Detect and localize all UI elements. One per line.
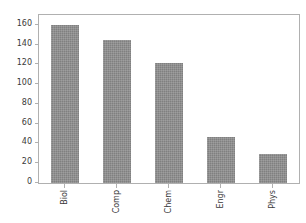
plot-area [38,14,300,184]
bar-phys [259,154,286,183]
x-axis: BiolCompChemEngrPhys [38,184,300,223]
bar-chart-figure: 020406080100120140160 BiolCompChemEngrPh… [0,0,306,223]
bar-engr [207,137,234,183]
x-tick-label: Engr [216,190,225,209]
bar-biol [51,25,78,183]
x-tick-label: Biol [60,190,69,205]
x-tick-label: Chem [164,190,173,213]
y-tick-label: 60 [22,117,32,128]
x-tick-mark [272,184,273,188]
y-tick-label: 120 [17,57,32,68]
y-tick-label: 140 [17,38,32,49]
x-tick-label: Comp [112,190,121,213]
y-tick-label: 40 [22,136,32,147]
x-tick-mark [116,184,117,188]
y-tick-label: 20 [22,156,32,167]
x-tick-mark [64,184,65,188]
y-tick-label: 0 [27,176,32,187]
bar-comp [103,40,130,183]
x-tick-mark [168,184,169,188]
y-tick-label: 80 [22,97,32,108]
x-tick-mark [220,184,221,188]
y-tick-label: 160 [17,18,32,29]
y-tick-label: 100 [17,77,32,88]
x-tick-label: Phys [268,190,277,209]
y-axis: 020406080100120140160 [0,14,38,184]
bar-chem [155,63,182,183]
